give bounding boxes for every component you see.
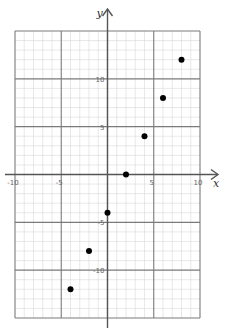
y-tick-label: 5 bbox=[100, 124, 104, 132]
data-point bbox=[160, 95, 166, 101]
data-point bbox=[68, 286, 74, 292]
data-point bbox=[123, 172, 129, 178]
x-tick-label: -5 bbox=[56, 179, 63, 187]
y-tick-label: -10 bbox=[93, 267, 104, 275]
tick-labels: -10-5510105-5-10 bbox=[7, 76, 202, 275]
y-tick-label: 10 bbox=[96, 76, 105, 84]
y-axis-label: y bbox=[96, 7, 104, 20]
data-point bbox=[86, 248, 92, 254]
y-tick-label: -5 bbox=[98, 219, 105, 227]
data-point bbox=[105, 210, 111, 216]
scatter-chart: -10-5510105-5-10 x y bbox=[0, 0, 230, 335]
x-axis-label: x bbox=[213, 177, 220, 190]
x-tick-label: 5 bbox=[150, 179, 154, 187]
axes bbox=[5, 9, 218, 328]
data-point bbox=[142, 133, 148, 139]
x-tick-label: 10 bbox=[194, 179, 203, 187]
data-point bbox=[179, 57, 185, 63]
x-tick-label: -10 bbox=[7, 179, 18, 187]
